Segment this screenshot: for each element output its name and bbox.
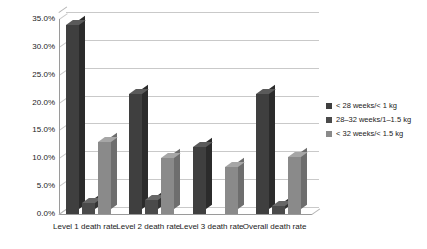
x-axis-category-label: Level 2 death rate xyxy=(116,222,179,231)
legend-swatch-icon xyxy=(326,131,332,137)
legend-item[interactable]: < 28 weeks/< 1 kg xyxy=(326,101,425,110)
y-axis-tick-label: 35.0% xyxy=(3,15,55,23)
bar-face xyxy=(161,158,174,214)
bar-face xyxy=(82,203,95,214)
bar-face xyxy=(225,167,238,214)
y-axis-tick-labels: 0.0%5.0%10.0%15.0%20.0%25.0%30.0%35.0% xyxy=(0,0,55,249)
bar-face xyxy=(129,94,142,214)
floor-right-edge xyxy=(311,208,320,215)
bar[interactable] xyxy=(145,200,158,214)
legend-item[interactable]: < 32 weeks/< 1.5 kg xyxy=(326,129,425,138)
legend-label: < 32 weeks/< 1.5 kg xyxy=(336,129,403,138)
gridline xyxy=(66,12,319,13)
bar[interactable] xyxy=(256,94,269,214)
bar-groups xyxy=(59,19,312,214)
x-axis-category-label: Overall death rate xyxy=(243,222,306,231)
y-axis-tick-label: 30.0% xyxy=(3,43,55,51)
bar[interactable] xyxy=(161,158,174,214)
legend-item[interactable]: 28–32 weeks/1–1.5 kg xyxy=(326,115,425,124)
bar-side xyxy=(142,85,148,209)
y-axis-tick-label: 0.0% xyxy=(3,210,55,218)
bar-side xyxy=(269,85,275,209)
bar-group xyxy=(59,19,122,214)
bar-side xyxy=(111,132,117,209)
chart-legend: < 28 weeks/< 1 kg28–32 weeks/1–1.5 kg< 3… xyxy=(326,101,425,143)
legend-label: < 28 weeks/< 1 kg xyxy=(336,101,397,110)
bar-face xyxy=(256,94,269,214)
bar[interactable] xyxy=(66,25,79,214)
bar-face xyxy=(145,200,158,214)
bar-side xyxy=(206,138,212,209)
bar[interactable] xyxy=(225,167,238,214)
bar[interactable] xyxy=(82,203,95,214)
bar[interactable] xyxy=(193,147,206,214)
bar-chart: 0.0%5.0%10.0%15.0%20.0%25.0%30.0%35.0% L… xyxy=(0,0,427,249)
bar[interactable] xyxy=(272,206,285,214)
bar[interactable] xyxy=(98,142,111,214)
x-axis-category-label: Level 1 death rate xyxy=(53,222,116,231)
bar-group xyxy=(249,19,312,214)
bar[interactable] xyxy=(288,157,301,214)
bar-face xyxy=(272,206,285,214)
legend-swatch-icon xyxy=(326,103,332,109)
bar-face xyxy=(98,142,111,214)
bar[interactable] xyxy=(129,94,142,214)
y-axis-tick-label: 25.0% xyxy=(3,71,55,79)
x-axis-category-labels: Level 1 death rateLevel 2 death rateLeve… xyxy=(59,222,321,236)
y-axis-tick-label: 5.0% xyxy=(3,182,55,190)
y-axis-tick-label: 15.0% xyxy=(3,126,55,134)
y-axis-tick-label: 20.0% xyxy=(3,99,55,107)
bar-face xyxy=(288,157,301,214)
bar-face xyxy=(193,147,206,214)
bar-side xyxy=(301,147,307,209)
bar-group xyxy=(186,19,249,214)
bar-group xyxy=(122,19,185,214)
legend-swatch-icon xyxy=(326,117,332,123)
x-axis xyxy=(59,214,312,215)
bar-side xyxy=(174,149,180,209)
x-axis-category-label: Level 3 death rate xyxy=(180,222,243,231)
bar-side xyxy=(79,15,85,209)
bar-face xyxy=(66,25,79,214)
legend-label: 28–32 weeks/1–1.5 kg xyxy=(336,115,411,124)
y-axis-tick-label: 10.0% xyxy=(3,154,55,162)
